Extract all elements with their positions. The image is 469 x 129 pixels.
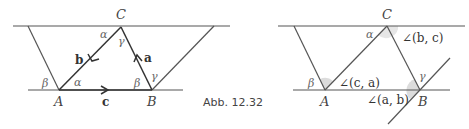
right-figure: C A B α β γ ∠(b, c) ∠(c, a) ∠(a, b) <box>278 7 465 124</box>
vertex-b-label: B <box>146 94 157 109</box>
angle-beta-bottom: β <box>133 77 140 90</box>
angle-alpha: α <box>366 28 374 41</box>
extension-line-b <box>388 58 450 124</box>
angle-beta: β <box>307 77 314 90</box>
angle-gamma-top: γ <box>118 35 125 48</box>
angle-beta-left: β <box>41 77 48 90</box>
right-slant-line <box>152 26 214 90</box>
figure-caption: Abb. 12.32 <box>203 96 263 109</box>
vertex-b-label: B <box>417 94 428 109</box>
vertex-a-label: A <box>53 94 63 109</box>
angle-ab-label: ∠(a, b) <box>367 93 409 107</box>
left-figure: C A B b a c α γ β α β γ <box>13 7 230 109</box>
vertex-a-label: A <box>319 94 329 109</box>
vector-b-label: b <box>75 53 83 67</box>
vector-a-label: a <box>144 51 152 65</box>
angle-alpha-top: α <box>100 28 108 41</box>
angle-ca-label: ∠(c, a) <box>339 76 380 90</box>
angle-gamma: γ <box>419 70 426 83</box>
triangle-diagram: C A B b a c α γ β α β γ Abb. 12.32 C A B… <box>0 0 469 129</box>
vertex-c-label: C <box>116 7 126 22</box>
vertex-c-label: C <box>382 7 392 22</box>
angle-bc-label: ∠(b, c) <box>402 31 443 45</box>
vector-c-label: c <box>102 95 109 109</box>
angle-gamma-bottom: γ <box>151 70 158 83</box>
angle-alpha-bottom: α <box>74 76 82 89</box>
